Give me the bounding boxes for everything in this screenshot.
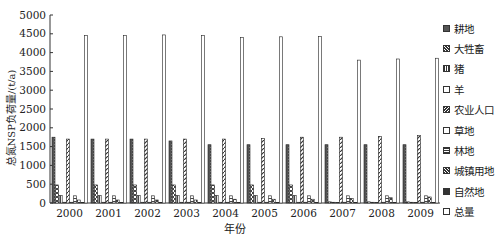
bar [201, 36, 204, 203]
bar [215, 195, 218, 203]
axes: 0500100015002000250030003500400045005000 [19, 9, 440, 209]
bar [162, 35, 165, 203]
x-tick-label: 2008 [368, 207, 395, 219]
bar [261, 138, 264, 203]
legend-label: 大牲畜 [454, 41, 484, 56]
bar [279, 37, 282, 203]
legend-swatch-icon [443, 86, 450, 93]
bar [230, 196, 233, 203]
legend-label: 林地 [454, 143, 474, 158]
bar [123, 36, 126, 203]
bar [308, 196, 311, 203]
legend-swatch-icon [443, 167, 450, 174]
bar [113, 196, 116, 203]
bar [148, 202, 151, 203]
bar [52, 137, 55, 203]
legend-item: 耕地 [443, 18, 494, 38]
bar [364, 145, 367, 203]
bar [152, 196, 155, 203]
bar [130, 139, 133, 203]
bar [176, 195, 179, 203]
y-tick-label: 2000 [19, 121, 46, 133]
bar [403, 145, 406, 203]
bar [300, 137, 303, 203]
legend-label: 城镇用地 [454, 163, 494, 178]
bar [265, 202, 268, 203]
y-tick-label: 3000 [19, 84, 46, 96]
bar [272, 199, 275, 203]
bar [378, 136, 381, 203]
bar [191, 196, 194, 203]
bar [56, 185, 59, 203]
bar [410, 202, 413, 203]
y-tick-label: 0 [39, 197, 46, 209]
bar [417, 135, 420, 203]
legend-swatch-icon [443, 25, 450, 32]
y-tick-label: 2500 [19, 103, 46, 115]
bar [286, 145, 289, 203]
legend-item: 羊 [443, 79, 494, 99]
bar [105, 139, 108, 203]
bar [102, 202, 105, 203]
bar [332, 202, 335, 203]
bar [169, 141, 172, 203]
bar [386, 196, 389, 203]
bar [233, 199, 236, 203]
bar [155, 200, 158, 203]
x-tick-label: 2003 [173, 207, 200, 219]
bar [318, 36, 321, 203]
y-tick-label: 3500 [19, 65, 46, 77]
x-axis-title: 年份 [224, 220, 246, 236]
bar [187, 202, 190, 203]
legend-swatch-icon [443, 127, 450, 134]
bar [339, 137, 342, 203]
legend-label: 总量 [454, 204, 474, 219]
bar [84, 36, 87, 203]
bar [382, 202, 385, 203]
bar [247, 145, 250, 203]
bar [357, 60, 360, 203]
bar [421, 202, 424, 203]
bar [74, 196, 77, 203]
bar [389, 198, 392, 203]
legend-label: 草地 [454, 123, 474, 138]
bar [368, 202, 371, 203]
bar [297, 202, 300, 203]
legend-swatch-icon [443, 208, 450, 215]
legend: 耕地大牲畜猪羊农业人口草地林地城镇用地自然地总量 [443, 18, 494, 222]
y-tick-label: 4500 [19, 27, 46, 39]
bar [183, 139, 186, 203]
y-tick-label: 5000 [19, 9, 46, 21]
legend-label: 自然地 [454, 184, 484, 199]
legend-swatch-icon [443, 188, 450, 195]
bar [91, 139, 94, 203]
x-tick-label: 2009 [407, 207, 434, 219]
legend-item: 大牲畜 [443, 38, 494, 58]
bar [109, 202, 112, 203]
bar [428, 197, 431, 203]
legend-item: 城镇用地 [443, 161, 494, 181]
bar [66, 139, 69, 203]
bar [347, 196, 350, 203]
bar [350, 198, 353, 203]
legend-item: 猪 [443, 59, 494, 79]
x-tick-label: 2002 [134, 207, 161, 219]
bar [208, 145, 211, 203]
legend-item: 总量 [443, 202, 494, 222]
bar [59, 195, 62, 203]
legend-label: 猪 [454, 61, 464, 76]
bar [251, 185, 254, 203]
bar [141, 202, 144, 203]
bar [343, 202, 346, 203]
x-tick-label: 2006 [290, 207, 317, 219]
bar [77, 200, 80, 203]
y-tick-label: 1000 [19, 159, 46, 171]
bar [407, 202, 410, 203]
bar [304, 202, 307, 203]
legend-swatch-icon [443, 45, 450, 52]
bar-chart: 0500100015002000250030003500400045005000… [0, 0, 498, 241]
bar [63, 202, 66, 203]
bar [254, 195, 257, 203]
legend-item: 林地 [443, 140, 494, 160]
bar [116, 200, 119, 203]
